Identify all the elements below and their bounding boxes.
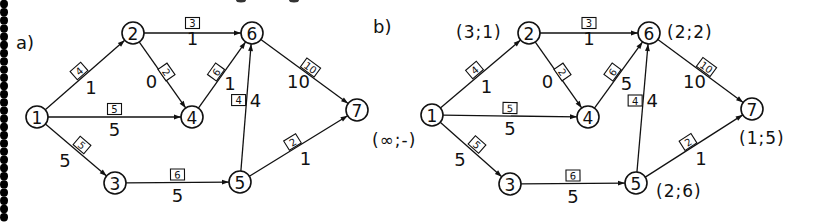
node-label: 3 bbox=[505, 175, 516, 195]
border-dot bbox=[0, 197, 8, 205]
edge-arrow bbox=[440, 122, 502, 176]
node-4: 4 bbox=[577, 106, 599, 128]
node-5: 5 bbox=[625, 172, 647, 194]
capacity-box: 6 bbox=[604, 63, 622, 81]
border-dot bbox=[0, 131, 8, 139]
border-dot bbox=[0, 188, 8, 196]
edge-1-2: 41 bbox=[45, 40, 124, 110]
dotted-border bbox=[0, 0, 8, 221]
edge-1-4: 55 bbox=[443, 102, 577, 138]
node-1: 1 bbox=[26, 106, 48, 128]
panel-a-label: a) bbox=[16, 32, 34, 53]
border-dot bbox=[0, 106, 8, 114]
border-dot bbox=[0, 82, 8, 90]
border-dot bbox=[0, 115, 8, 123]
border-dot bbox=[0, 8, 8, 16]
border-dot bbox=[0, 0, 8, 8]
node-mark-7: (1;5) bbox=[739, 128, 785, 148]
node-label: 7 bbox=[352, 101, 363, 121]
panel-b: b) 4155553120656544101021 1234567 (∞;-)(… bbox=[372, 16, 785, 207]
border-dot bbox=[0, 57, 8, 65]
node-mark-5: (2;6) bbox=[656, 181, 702, 201]
edge-5-7: 21 bbox=[645, 115, 742, 177]
flow-value: 1 bbox=[224, 73, 235, 94]
border-dot bbox=[0, 139, 8, 147]
node-label: 6 bbox=[644, 24, 655, 44]
edge-arrow bbox=[45, 124, 106, 176]
edge-2-6: 31 bbox=[540, 18, 638, 49]
flow-value: 10 bbox=[683, 71, 706, 92]
node-3: 3 bbox=[104, 172, 126, 194]
border-dot bbox=[0, 33, 8, 41]
edge-1-3: 55 bbox=[45, 124, 106, 176]
node-mark-6: (2;2) bbox=[667, 22, 713, 42]
flow-value: 5 bbox=[454, 149, 465, 170]
node-label: 6 bbox=[247, 24, 258, 44]
edge-1-4: 55 bbox=[48, 104, 181, 140]
flow-value: 1 bbox=[187, 28, 198, 49]
flow-value: 5 bbox=[172, 185, 183, 206]
capacity-box: 4 bbox=[232, 95, 246, 107]
border-dot bbox=[0, 213, 8, 221]
panel-b-label: b) bbox=[373, 16, 391, 37]
edge-arrow bbox=[126, 182, 229, 183]
network-flow-figure: a) 4155553120616544101021 1234567 b) 415… bbox=[0, 0, 816, 224]
node-7: 7 bbox=[741, 98, 763, 120]
flow-value: 1 bbox=[85, 77, 96, 98]
edge-5-6: 44 bbox=[628, 44, 658, 172]
capacity-box: 6 bbox=[207, 63, 224, 81]
node-2: 2 bbox=[122, 22, 144, 44]
border-dot bbox=[0, 65, 8, 73]
node-label: 5 bbox=[235, 173, 246, 193]
border-dot bbox=[0, 164, 8, 172]
capacity-box: 6 bbox=[566, 170, 580, 182]
border-dot bbox=[0, 90, 8, 98]
border-dot bbox=[0, 172, 8, 180]
node-6: 6 bbox=[241, 22, 263, 44]
node-1: 1 bbox=[421, 104, 443, 126]
node-label: 7 bbox=[747, 100, 758, 120]
cropped-glyph-fragment bbox=[236, 0, 246, 3]
capacity-value: 5 bbox=[507, 103, 514, 114]
edge-1-2: 41 bbox=[440, 40, 520, 108]
flow-value: 5 bbox=[109, 119, 120, 140]
flow-value: 0 bbox=[146, 71, 157, 92]
flow-value: 1 bbox=[695, 148, 706, 169]
flow-value: 4 bbox=[250, 90, 261, 111]
flow-value: 5 bbox=[59, 150, 70, 171]
node-mark-1: (∞;-) bbox=[372, 130, 416, 150]
edge-3-5: 65 bbox=[521, 170, 625, 207]
capacity-value: 4 bbox=[235, 95, 241, 106]
flow-value: 4 bbox=[646, 90, 657, 111]
edge-2-4: 20 bbox=[139, 42, 185, 108]
node-4: 4 bbox=[181, 106, 203, 128]
edge-6-7: 1010 bbox=[658, 40, 743, 103]
edge-arrow bbox=[521, 183, 625, 184]
edge-5-7: 21 bbox=[249, 116, 347, 176]
node-label: 3 bbox=[110, 174, 121, 194]
capacity-value: 6 bbox=[570, 170, 576, 181]
flow-value: 1 bbox=[300, 148, 311, 169]
edge-1-3: 55 bbox=[440, 122, 502, 176]
capacity-box: 5 bbox=[503, 102, 517, 114]
node-7: 7 bbox=[346, 99, 368, 121]
node-label: 5 bbox=[631, 174, 642, 194]
border-dot bbox=[0, 205, 8, 213]
capacity-box: 2 bbox=[158, 63, 175, 81]
capacity-value: 5 bbox=[111, 104, 117, 115]
capacity-box: 4 bbox=[628, 95, 642, 107]
node-label: 2 bbox=[128, 24, 139, 44]
edge-arrow bbox=[645, 115, 742, 177]
edge-3-5: 65 bbox=[126, 169, 229, 206]
capacity-box: 5 bbox=[73, 136, 91, 154]
figure-canvas: a) 4155553120616544101021 1234567 b) 415… bbox=[0, 0, 816, 224]
border-dot bbox=[0, 180, 8, 188]
capacity-box: 5 bbox=[108, 104, 122, 116]
capacity-value: 4 bbox=[632, 96, 638, 107]
border-dot bbox=[0, 147, 8, 155]
flow-value: 5 bbox=[504, 118, 515, 139]
edge-2-4: 20 bbox=[535, 42, 581, 108]
edge-arrow bbox=[440, 40, 520, 108]
node-label: 4 bbox=[583, 108, 594, 128]
edge-arrow bbox=[249, 116, 347, 176]
